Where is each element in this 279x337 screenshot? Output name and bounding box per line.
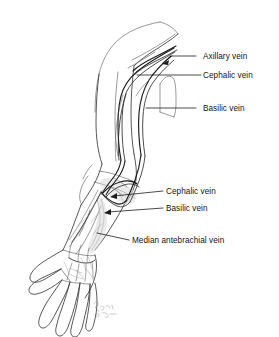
dorsal-network-branch-b xyxy=(69,274,83,279)
leader-basilic-vein-lower xyxy=(108,208,163,212)
hand-ulnar-border xyxy=(85,255,97,298)
label-median-antebrachial-vein: Median antebrachial vein xyxy=(132,236,224,245)
anatomy-figure: Axillary vein Cephalic vein Basilic vein… xyxy=(0,0,279,337)
axillary-vein-path xyxy=(133,46,176,71)
median-antebrachial-vein-group xyxy=(88,198,107,253)
dorsal-metacarpal-vein-4 xyxy=(92,262,93,279)
thenar-contour xyxy=(61,269,70,281)
cephalic-vein-upper-wall xyxy=(122,52,175,161)
wrist-vein-confluence-a xyxy=(69,242,72,258)
lateral-flap-group xyxy=(160,76,176,117)
cephalic-vein-upper-path xyxy=(118,48,174,160)
digit-thumb xyxy=(29,269,62,294)
label-cephalic-vein-lower: Cephalic vein xyxy=(166,187,216,196)
shoulder-crest xyxy=(160,22,178,34)
dorsal-venous-network-group xyxy=(64,257,95,281)
median-antebrachial-shade xyxy=(88,198,107,253)
cephalic-vein-upper-group xyxy=(118,48,175,161)
cubital-vein-network-group xyxy=(97,155,145,207)
label-basilic-vein-upper: Basilic vein xyxy=(203,104,245,113)
forearm-perforator-b xyxy=(75,228,84,239)
dorsal-metacarpal-vein-1 xyxy=(67,263,72,280)
lateral-upper-arm-line xyxy=(131,66,134,154)
web-space-a xyxy=(62,280,70,282)
label-basilic-vein-lower: Basilic vein xyxy=(166,204,208,213)
label-cephalic-vein-upper: Cephalic vein xyxy=(203,71,253,80)
basilic-vein-upper-group xyxy=(136,56,174,156)
dorsal-network-branch-f xyxy=(81,258,86,270)
hand-dorsum-outline xyxy=(30,250,63,282)
lateral-flap xyxy=(160,76,176,117)
dorsal-metacarpal-vein-3 xyxy=(85,264,86,281)
dorsal-network-branch-e xyxy=(64,262,69,274)
web-space-c xyxy=(80,283,90,284)
dorsal-network-branch-a xyxy=(70,268,82,273)
label-axillary-vein: Axillary vein xyxy=(203,52,247,61)
anatomy-illustration xyxy=(0,0,279,337)
elbow-medial-border xyxy=(81,164,102,205)
shoulder-outline-group xyxy=(95,22,178,112)
digit-index xyxy=(39,280,70,328)
lateral-flap-foot xyxy=(160,112,174,117)
web-space-b xyxy=(70,282,80,283)
wrist-vein-confluence-c xyxy=(87,248,89,262)
